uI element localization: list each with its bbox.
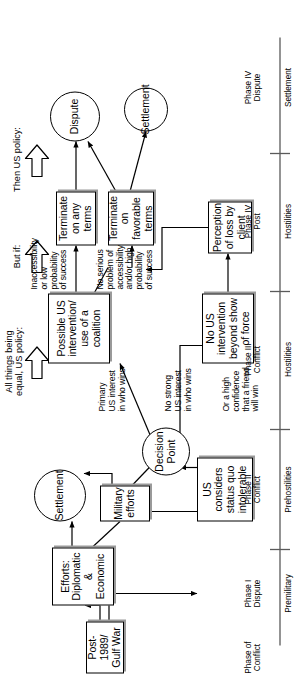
edge-label-primary-us-interest: Primary US interest in who wins [98, 349, 127, 411]
diagram-canvas: All things being equal, US policy: But i… [12, 0, 296, 697]
policy-arrow-all-things-icon [24, 345, 50, 379]
node-military-efforts[interactable]: Military efforts [100, 485, 150, 521]
phase-2-stage: Prehostilities [284, 453, 293, 525]
annotation-but-if: But if: [12, 223, 22, 289]
edge-label-no-strong-us-interest: No strong US interest in who wins [164, 349, 193, 411]
phase-1-name: Phase I Dispute [244, 565, 263, 621]
node-decision-point[interactable]: Decision Point [142, 427, 190, 475]
phase-3-name: Phase III Conflict [244, 329, 263, 389]
annotation-then-us-policy: Then US policy: [12, 119, 22, 199]
edge-label-no-serious-problem: No serious problem of accessibility and/… [96, 243, 155, 289]
node-terminate-on-any-terms[interactable]: Terminate on any terms [56, 191, 96, 245]
phase-1-stage: Premilitary [284, 565, 293, 621]
node-terminate-on-favorable-terms[interactable]: Terminate on favorable terms [108, 191, 154, 245]
phase-4-dispute-name: Phase IV Dispute [244, 57, 263, 117]
phase-4-post-name: Phase IV Post [244, 191, 263, 251]
edge-label-inaccessibility-low-probability: Inaccessibility or low probability of su… [30, 241, 69, 289]
node-settlement-final[interactable]: Settlement [124, 87, 168, 131]
timeline-axis-label: Phase of Conflict [244, 633, 263, 681]
node-dispute[interactable]: Dispute [50, 91, 100, 141]
phase-4-post-stage: Hostilities [284, 191, 293, 251]
node-post-1989-gulf-war[interactable]: Post-1989/ Gulf War [86, 621, 124, 673]
annotation-all-things-equal: All things being equal, US policy: [4, 321, 25, 401]
phase-4-dispute-stage: Settlement [284, 57, 293, 117]
phase-3-stage: Hostilities [284, 329, 293, 389]
node-settlement-early[interactable]: Settlement [34, 469, 86, 521]
phase-2-name: Phase II Conflict [244, 461, 263, 517]
node-efforts-diplomatic-economic[interactable]: Efforts: Diplomatic & Economic [52, 547, 114, 605]
policy-arrow-then-icon [24, 143, 50, 177]
